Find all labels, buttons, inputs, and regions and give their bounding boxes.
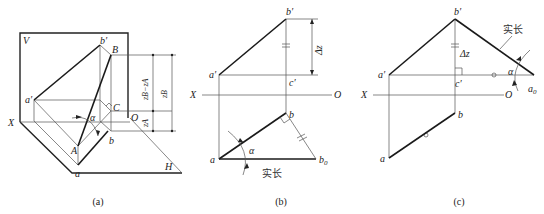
label-delta-z: Δz (459, 48, 470, 59)
caption-c: (c) (453, 196, 464, 208)
true-length-leader (500, 36, 512, 49)
label-O: O (334, 89, 341, 100)
label-a-prime: a′ (209, 69, 217, 80)
arrow-head (76, 115, 82, 119)
label-V: V (23, 35, 31, 46)
caption-b: (b) (275, 196, 287, 208)
label-a0: a0 (528, 83, 537, 96)
projector (100, 121, 111, 131)
label-b0: b0 (319, 154, 328, 167)
line-a-prime-b-prime (34, 45, 100, 100)
label-X: X (189, 89, 197, 100)
right-angle-mark (455, 68, 462, 75)
label-alpha: α (508, 66, 514, 77)
label-a: a (210, 154, 215, 165)
projector (100, 100, 111, 111)
alpha-arc (228, 131, 245, 175)
label-B: B (112, 44, 118, 55)
label-C: C (113, 102, 120, 113)
label-alpha: α (90, 112, 96, 123)
line-a-prime-b-prime (389, 19, 455, 75)
label-a: a (75, 168, 80, 179)
projector (34, 100, 78, 146)
label-a-prime: a′ (25, 94, 33, 105)
panel-b: b′ a′ c′ X O b a α b0 Δz 实长 (b) (189, 6, 341, 208)
panel-c: b′ a′ Δz c′ α a0 X O b a 实长 (c) (360, 6, 537, 208)
projection-figure: V X O H b′ B a′ C α A b a zB−zA zB zA (a… (0, 0, 544, 214)
label-b-prime: b′ (454, 6, 462, 17)
label-b: b (109, 135, 114, 146)
label-H: H (164, 161, 173, 172)
label-a-prime: a′ (378, 69, 386, 80)
label-true-length: 实长 (262, 167, 282, 179)
label-A: A (70, 145, 78, 156)
arrow-head (96, 130, 100, 136)
label-b-prime: b′ (286, 6, 294, 17)
line-ab (78, 131, 108, 165)
projector (100, 45, 111, 55)
dim-label-za: zA (141, 119, 150, 128)
label-delta-z: Δz (313, 45, 324, 56)
label-X: X (360, 89, 368, 100)
caption-a: (a) (92, 196, 103, 208)
panel-a: V X O H b′ B a′ C α A b a zB−zA zB zA (a… (7, 33, 182, 208)
label-X: X (7, 117, 15, 128)
label-a: a (380, 153, 385, 164)
dim-label-zb-minus-za: zB−zA (141, 78, 150, 101)
label-b: b (458, 109, 463, 120)
line-a-prime-b-prime (219, 19, 286, 75)
dim-label-zb: zB (160, 90, 169, 99)
label-c-prime: c′ (289, 77, 296, 88)
label-b-prime: b′ (100, 35, 108, 46)
label-true-length: 实长 (503, 23, 523, 35)
label-alpha: α (249, 145, 255, 156)
label-b: b (289, 109, 294, 120)
line-ab (389, 113, 455, 158)
h-plane-right-edge (130, 118, 182, 173)
label-c-prime: c′ (455, 78, 462, 89)
label-O: O (505, 89, 512, 100)
label-O: O (131, 112, 138, 123)
